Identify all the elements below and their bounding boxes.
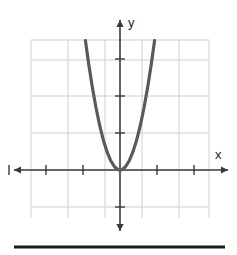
parabola-figure: y x [0,0,237,255]
y-axis-arrow-down-icon [116,224,123,231]
y-axis-label: y [128,15,135,30]
x-axis-label: x [215,147,222,162]
axes [14,20,228,231]
x-axis-arrow-right-icon [221,166,228,173]
graph-canvas: y x [0,0,237,255]
y-axis-arrow-up-icon [116,20,123,27]
x-axis-arrow-left-icon [14,166,21,173]
